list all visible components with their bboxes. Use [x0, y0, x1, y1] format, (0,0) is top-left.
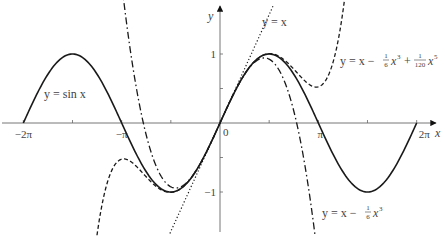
label-quintic: y = x − 1 6 x 3 + 1 120 x 5 — [340, 52, 438, 69]
svg-text:6: 6 — [384, 61, 388, 69]
annotations: y = sin x y = x y = x − 1 6 x 3 + 1 120 … — [44, 15, 438, 221]
x-tick-label: 0 — [223, 126, 229, 138]
svg-text:120: 120 — [415, 61, 426, 69]
x-axis-label: x — [434, 126, 441, 140]
label-cubic: y = x − 1 6 x 3 — [322, 204, 383, 221]
label-linear: y = x — [262, 15, 287, 29]
taylor-series-chart: −2π−π0π2π 1−1 x y y = sin x y = x y = x … — [0, 0, 445, 236]
y-axis-label: y — [207, 9, 214, 23]
y-tick-label: 1 — [211, 48, 217, 60]
svg-text:3: 3 — [397, 53, 401, 61]
svg-text:x: x — [427, 54, 434, 68]
x-tick-label: −2π — [15, 128, 33, 140]
svg-text:3: 3 — [379, 205, 383, 213]
svg-text:y = x −: y = x − — [322, 206, 357, 220]
label-sin: y = sin x — [44, 87, 86, 101]
svg-text:+: + — [404, 54, 411, 68]
svg-text:x: x — [390, 54, 397, 68]
y-tick-label: −1 — [204, 186, 216, 198]
svg-text:1: 1 — [366, 204, 370, 212]
svg-text:x: x — [372, 206, 379, 220]
svg-text:1: 1 — [418, 52, 422, 60]
svg-text:y = x −: y = x − — [340, 54, 375, 68]
svg-text:6: 6 — [366, 213, 370, 221]
x-tick-label: 2π — [419, 128, 431, 140]
svg-text:5: 5 — [434, 53, 438, 61]
svg-text:1: 1 — [384, 52, 388, 60]
